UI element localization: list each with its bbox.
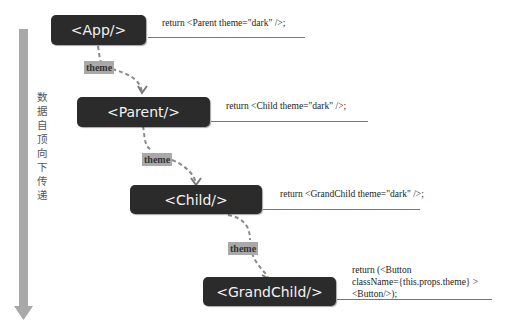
flow-direction-label: 数据自顶向下传递 [36, 90, 48, 202]
code-grandchild-underline [337, 299, 492, 300]
code-app-underline [148, 37, 305, 38]
code-line-2: className={this.props.theme} > [352, 276, 478, 288]
node-child-label: <Child/> [164, 192, 228, 208]
node-app: <App/> [51, 15, 146, 45]
edge-label-child-grandchild: theme [228, 242, 258, 255]
node-grandchild: <GrandChild/> [203, 277, 336, 306]
code-child-underline [263, 209, 420, 210]
code-grandchild: return (<ButtonclassName={this.props.the… [352, 264, 478, 300]
code-child: return <GrandChild theme="dark" />; [280, 188, 424, 200]
node-grandchild-label: <GrandChild/> [216, 284, 322, 300]
edge-label-app-parent: theme [84, 61, 114, 74]
code-app: return <Parent theme="dark" />; [162, 17, 285, 29]
code-parent-underline [211, 121, 368, 122]
node-parent: <Parent/> [77, 97, 210, 127]
node-child: <Child/> [130, 185, 262, 214]
flow-arrow-shaft [19, 29, 28, 309]
flow-arrow-head [14, 306, 33, 320]
edge-label-parent-child: theme [142, 153, 172, 166]
node-app-label: <App/> [71, 22, 127, 38]
code-parent: return <Child theme="dark" />; [226, 100, 346, 112]
code-line-1: return (<Button [352, 264, 478, 276]
node-parent-label: <Parent/> [107, 104, 180, 120]
